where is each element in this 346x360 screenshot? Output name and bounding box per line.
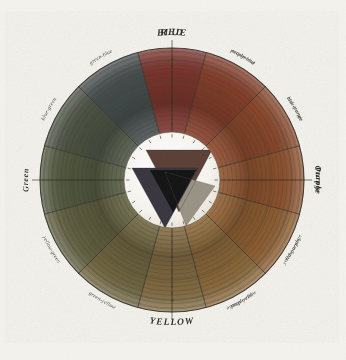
hue-label-yellow: YELLOW: [149, 315, 195, 327]
colour-wheel-svg: 1122334455667788991010 REDorange-redred-…: [0, 0, 346, 360]
ring-numeral-top-10: 10: [171, 57, 175, 61]
colour-wheel-plate: 1122334455667788991010 REDorange-redred-…: [0, 0, 346, 360]
hue-label-purple: Purple: [313, 167, 323, 194]
ring-numeral-bottom-10: 10: [171, 299, 175, 303]
hue-label-green: Green: [21, 168, 30, 192]
